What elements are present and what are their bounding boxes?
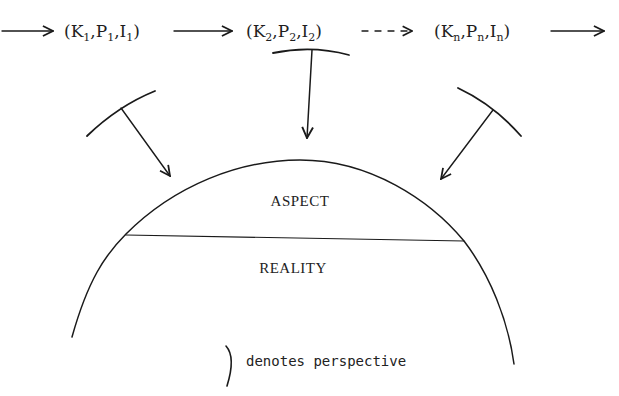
legend: denotes perspective <box>226 346 406 386</box>
state-sequence: (K1,P1,I1) (K2,P2,I2) (Kn,Pn,In) <box>2 21 604 44</box>
perspective-symbol-icon <box>226 346 231 386</box>
perspective-diagram: (K1,P1,I1) (K2,P2,I2) (Kn,Pn,In) <box>0 0 619 396</box>
aspect-label: ASPECT <box>271 193 330 209</box>
perspective-center <box>273 49 349 138</box>
legend-text: denotes perspective <box>246 353 406 369</box>
aspect-reality-divider <box>126 235 464 241</box>
reality-label: REALITY <box>259 260 327 276</box>
state-2: (K2,P2,I2) <box>246 21 322 44</box>
perspective-left <box>87 91 170 176</box>
state-1: (K1,P1,I1) <box>64 21 140 44</box>
state-n: (Kn,Pn,In) <box>434 21 510 44</box>
perspective-right <box>441 88 521 179</box>
